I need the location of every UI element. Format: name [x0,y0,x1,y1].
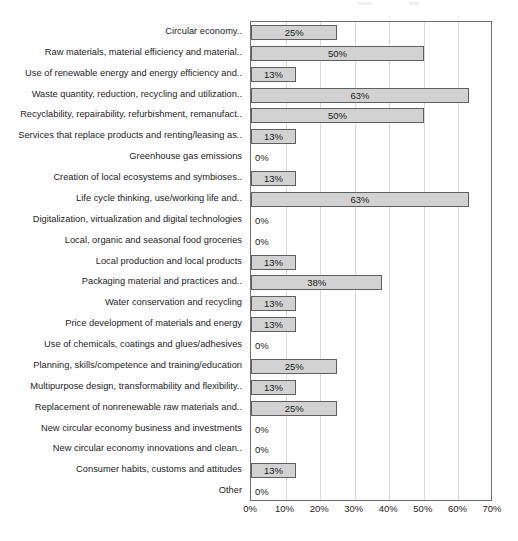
bar-value-label: 13% [251,129,296,144]
horizontal-bar-chart: Circular economy..Raw materials, materia… [0,0,518,541]
bar-value-label: 0% [255,484,269,499]
category-label: New circular economy business and invest… [41,418,242,440]
bar-row: 0% [251,335,491,357]
bar-value-label: 13% [251,255,296,270]
category-label: Waste quantity, reduction, recycling and… [32,84,242,106]
category-label: Consumer habits, customs and attitudes [76,459,242,481]
category-label: Use of chemicals, coatings and glues/adh… [44,334,242,356]
category-label: Other [219,480,242,502]
bar-row: 0% [251,210,491,232]
bar-row: 0% [251,147,491,169]
category-label: Replacement of nonrenewable raw material… [35,397,242,419]
category-label: Local, organic and seasonal food groceri… [65,230,242,252]
bar-row: 50% [251,105,491,127]
bar-value-label: 25% [251,25,337,40]
category-label: Local production and local products [96,251,242,273]
x-axis-tick-labels: 0%10%20%30%40%50%60%70% [250,503,492,523]
category-label: Packaging material and practices and.. [82,271,242,293]
category-label: Multipurpose design, transformability an… [30,376,242,398]
category-label: Digitalization, virtualization and digit… [33,209,242,231]
category-label: Price development of materials and energ… [65,313,242,335]
bar-value-label: 0% [255,234,269,249]
bar-value-label: 0% [255,150,269,165]
bar-row: 0% [251,231,491,253]
bar-row: 63% [251,85,491,107]
bar-value-label: 50% [251,108,424,123]
bar-row: 13% [251,293,491,315]
bar-value-label: 13% [251,296,296,311]
bar-value-label: 13% [251,380,296,395]
bar-value-label: 0% [255,338,269,353]
category-label: Raw materials, material efficiency and m… [45,42,242,64]
bar-value-label: 50% [251,46,424,61]
bar-value-label: 63% [251,88,469,103]
category-label: Life cycle thinking, use/working life an… [76,188,242,210]
category-label: New circular economy innovations and cle… [53,438,242,460]
bar-value-label: 38% [251,275,382,290]
x-tick-70%: 70% [482,503,501,514]
bar-row: 13% [251,64,491,86]
bar-row: 25% [251,22,491,44]
bar-row: 13% [251,377,491,399]
category-label: Greenhouse gas emissions [129,146,242,168]
bar-value-label: 63% [251,192,469,207]
category-label: Water conservation and recycling [105,292,242,314]
bar-value-label: 25% [251,401,337,416]
category-label: Planning, skills/competence and training… [33,355,242,377]
bar-value-label: 13% [251,171,296,186]
x-tick-10%: 10% [275,503,294,514]
bar-value-label: 0% [255,213,269,228]
x-tick-0%: 0% [243,503,257,514]
x-tick-60%: 60% [448,503,467,514]
bar-row: 25% [251,398,491,420]
bar-row: 63% [251,189,491,211]
category-label: Circular economy.. [165,21,242,43]
scan-artifact [358,2,372,5]
bar-value-label: 25% [251,359,337,374]
category-label: Recyclability, repairability, refurbishm… [20,104,242,126]
bar-row: 0% [251,419,491,441]
bar-row: 0% [251,439,491,461]
category-label: Creation of local ecosystems and symbios… [53,167,242,189]
bar-value-label: 0% [255,422,269,437]
x-tick-40%: 40% [379,503,398,514]
bar-value-label: 13% [251,67,296,82]
bar-row: 38% [251,272,491,294]
x-tick-20%: 20% [310,503,329,514]
bar-rows: 25%50%13%63%50%13%0%13%63%0%0%13%38%13%1… [251,22,491,500]
bar-row: 13% [251,252,491,274]
bar-row: 0% [251,481,491,503]
category-label: Use of renewable energy and energy effic… [25,63,242,85]
plot-area: 25%50%13%63%50%13%0%13%63%0%0%13%38%13%1… [250,21,492,501]
bar-value-label: 13% [251,463,296,478]
bar-row: 13% [251,460,491,482]
x-tick-30%: 30% [344,503,363,514]
x-tick-50%: 50% [413,503,432,514]
bar-value-label: 0% [255,442,269,457]
scan-artifact [409,2,419,5]
bar-row: 25% [251,356,491,378]
bar-row: 13% [251,314,491,336]
bar-row: 50% [251,43,491,65]
category-axis-labels: Circular economy..Raw materials, materia… [0,21,246,501]
category-label: Services that replace products and renti… [18,125,242,147]
bar-row: 13% [251,126,491,148]
bar-row: 13% [251,168,491,190]
bar-value-label: 13% [251,317,296,332]
